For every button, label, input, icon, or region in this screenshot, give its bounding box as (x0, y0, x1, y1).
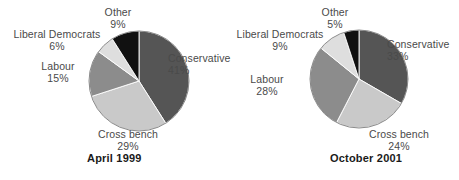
chart-title-october-2001: October 2001 (330, 152, 402, 164)
slice-label-labour: Labour28% (232, 73, 302, 97)
slice-label-value: 33% (387, 50, 459, 62)
chart-october-2001: Conservative33%Cross bench24%Labour28%Li… (230, 0, 459, 180)
slice-label-other: Other9% (88, 6, 148, 30)
pie-chart-figure: Conservative41%Cross bench29%Labour15%Li… (0, 0, 459, 180)
slice-label-cross-bench: Cross bench24% (355, 128, 443, 152)
slice-label-name: Other (88, 6, 148, 18)
slice-label-value: 6% (2, 40, 112, 52)
slice-label-name: Conservative (387, 38, 459, 50)
slice-label-name: Labour (23, 60, 93, 72)
slice-label-value: 29% (83, 140, 173, 152)
slice-label-value: 9% (88, 18, 148, 30)
chart-april-1999: Conservative41%Cross bench29%Labour15%Li… (0, 0, 229, 180)
slice-label-conservative: Conservative33% (387, 38, 459, 62)
slice-label-liberal-democrats: Liberal Democrats6% (2, 28, 112, 52)
slice-label-value: 15% (23, 72, 93, 84)
slice-label-value: 5% (305, 18, 365, 30)
slice-label-liberal-democrats: Liberal Democrats9% (225, 28, 335, 52)
slice-label-value: 24% (355, 140, 443, 152)
slice-label-name: Cross bench (355, 128, 443, 140)
slice-label-other: Other5% (305, 6, 365, 30)
slice-label-value: 9% (225, 40, 335, 52)
chart-title-april-1999: April 1999 (87, 152, 142, 164)
slice-label-name: Other (305, 6, 365, 18)
slice-label-name: Labour (232, 73, 302, 85)
slice-label-labour: Labour15% (23, 60, 93, 84)
slice-label-value: 28% (232, 85, 302, 97)
slice-label-cross-bench: Cross bench29% (83, 128, 173, 152)
slice-label-name: Cross bench (83, 128, 173, 140)
